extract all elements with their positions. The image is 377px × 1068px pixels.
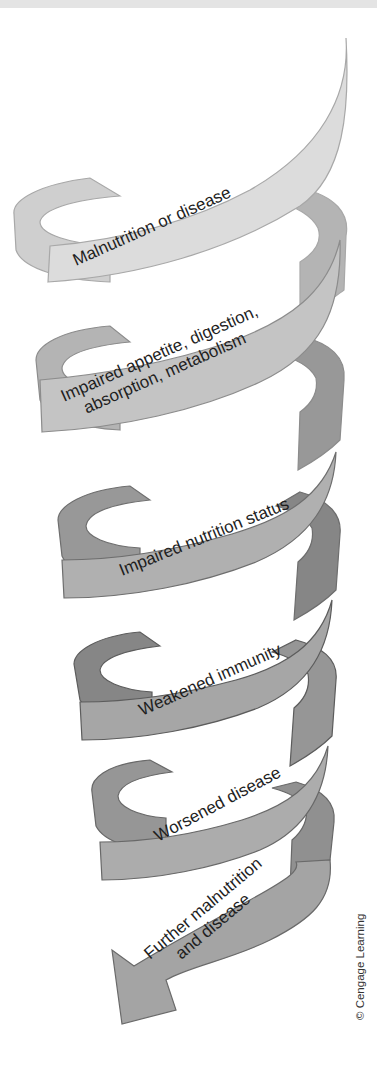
ribbon-stage-3: [62, 452, 336, 598]
copyright-credit: © Cengage Learning: [354, 914, 366, 1020]
spiral-diagram: Malnutrition or disease Impaired appetit…: [0, 0, 377, 1068]
back-loops: [14, 178, 172, 852]
